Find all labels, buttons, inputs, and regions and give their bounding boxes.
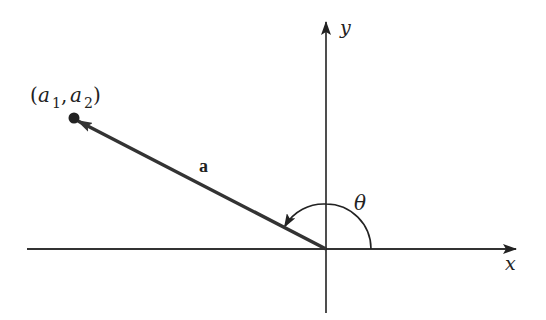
- endpoint-label: ( a 1 , a 2 ): [30, 83, 101, 111]
- svg-text:2: 2: [84, 95, 93, 111]
- vector-a: [69, 113, 327, 250]
- x-axis-label: x: [505, 252, 516, 274]
- svg-text:a: a: [70, 83, 82, 107]
- endpoint-dot: [69, 113, 80, 124]
- svg-text:(: (: [30, 83, 38, 107]
- vector-label: a: [199, 156, 208, 176]
- y-axis-label: y: [339, 16, 351, 38]
- svg-text:a: a: [38, 83, 50, 107]
- svg-text:1: 1: [52, 95, 61, 111]
- svg-text:,: ,: [61, 83, 67, 107]
- angle-label: θ: [354, 191, 366, 215]
- svg-text:): ): [93, 83, 101, 107]
- vector-diagram: y x a θ ( a 1 , a 2 ): [0, 0, 546, 320]
